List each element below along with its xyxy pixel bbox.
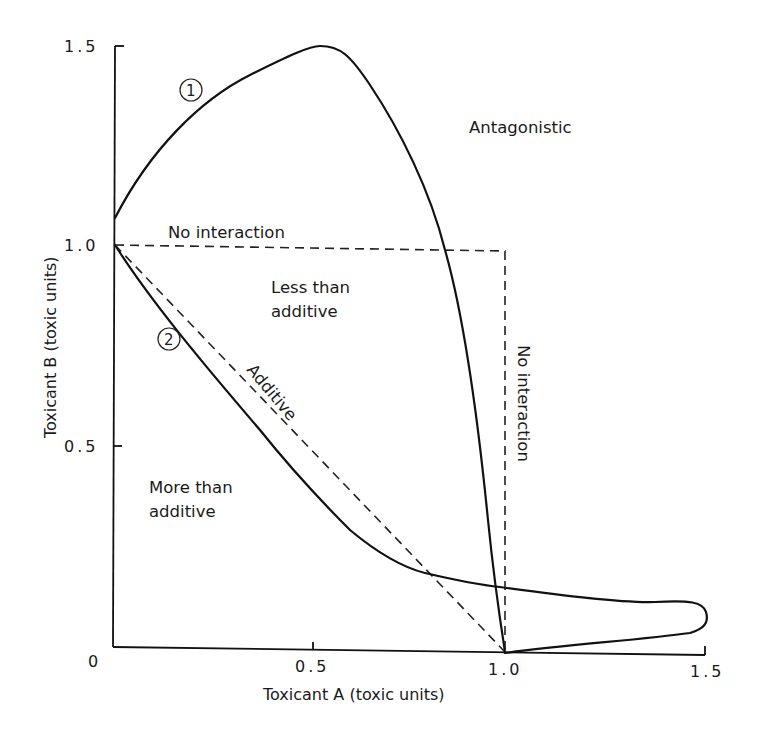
x-tick-label: 0 [88,652,101,671]
x-axis-line [113,647,705,655]
y-tick-labels: 1.5 1.0 0.5 [64,37,98,456]
curve-2-more-than-additive [115,245,707,653]
curve-2-marker: 2 [158,328,180,350]
y-tick-label: 0.5 [64,437,98,456]
axes [113,46,705,655]
y-tick-label: 1.5 [64,37,98,56]
label-more-than-additive-1: More than [149,478,233,497]
isobologram-chart: 1.5 1.0 0.5 0 0.5 1.0 1.5 Toxicant A (to… [0,0,760,743]
x-tick-label: 1.5 [690,662,724,681]
label-less-than-additive-2: additive [271,302,338,321]
y-axis-title: Toxicant B (toxic units) [41,256,60,439]
y-axis-line [113,46,115,647]
x-tick-label: 1.0 [488,660,522,679]
y-tick-label: 1.0 [64,236,98,255]
svg-text:2: 2 [164,331,174,349]
chart-svg: 1.5 1.0 0.5 0 0.5 1.0 1.5 Toxicant A (to… [0,0,760,743]
label-antagonistic: Antagonistic [469,118,572,137]
label-no-interaction-vertical: No interaction [514,345,533,462]
curve-1-marker: 1 [180,79,202,101]
x-axis-title: Toxicant A (toxic units) [262,685,445,704]
label-more-than-additive-2: additive [149,502,216,521]
x-tick-labels: 0 0.5 1.0 1.5 [88,652,724,681]
label-no-interaction-horizontal: No interaction [168,223,285,242]
label-less-than-additive-1: Less than [271,278,350,297]
x-tick-label: 0.5 [295,657,329,676]
label-additive: Additive [243,360,301,424]
svg-text:1: 1 [186,82,196,100]
